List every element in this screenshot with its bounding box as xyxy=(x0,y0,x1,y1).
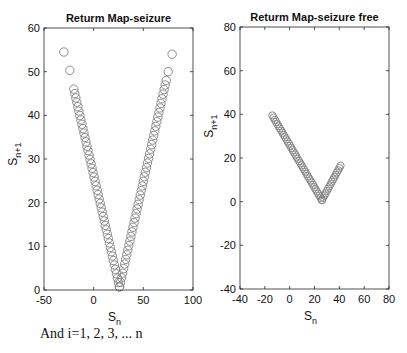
chart-title: Returm Map-seizure xyxy=(66,12,171,24)
y-tick-label: 10 xyxy=(28,240,40,252)
data-point xyxy=(164,67,172,75)
data-point xyxy=(168,50,176,58)
x-tick-label: -20 xyxy=(257,293,273,305)
y-axis-label: Sn+1 xyxy=(202,114,219,137)
y-tick-label: 0 xyxy=(230,196,236,208)
plot-seizure: -500501000102030405060Returm Map-seizure… xyxy=(6,12,202,327)
data-point xyxy=(162,76,170,84)
data-markers xyxy=(269,112,344,204)
chart-title: Returm Map-seizure free xyxy=(250,11,378,23)
y-tick-label: -40 xyxy=(220,283,236,295)
x-tick-label: 50 xyxy=(137,294,149,306)
y-tick-label: -20 xyxy=(220,239,236,251)
x-tick-label: 40 xyxy=(333,293,345,305)
y-tick-label: 20 xyxy=(224,152,236,164)
y-tick-label: 50 xyxy=(28,66,40,78)
x-axis-label: Sn xyxy=(304,309,317,326)
caption-text: And i=1, 2, 3, ... n xyxy=(40,326,142,342)
data-point xyxy=(60,48,68,56)
x-tick-label: 80 xyxy=(383,293,395,305)
y-tick-label: 40 xyxy=(224,108,236,120)
x-tick-label: 0 xyxy=(91,294,97,306)
x-tick-label: 100 xyxy=(184,294,202,306)
y-tick-label: 40 xyxy=(28,109,40,121)
figure: -500501000102030405060Returm Map-seizure… xyxy=(0,0,407,353)
x-tick-label: 60 xyxy=(358,293,370,305)
x-tick-label: 20 xyxy=(308,293,320,305)
y-tick-label: 0 xyxy=(34,284,40,296)
y-tick-label: 20 xyxy=(28,197,40,209)
y-tick-label: 60 xyxy=(224,65,236,77)
y-tick-label: 30 xyxy=(28,153,40,165)
y-tick-label: 60 xyxy=(28,22,40,34)
plot-seizure-free: -40-20020406080-40-20020406080Returm Map… xyxy=(202,11,395,326)
y-axis-label: Sn+1 xyxy=(6,142,23,165)
y-tick-label: 80 xyxy=(224,21,236,33)
x-axis-label: Sn xyxy=(108,310,121,327)
data-point xyxy=(66,66,74,74)
axes-box xyxy=(240,27,389,289)
data-markers xyxy=(60,48,177,291)
x-tick-label: 0 xyxy=(287,293,293,305)
